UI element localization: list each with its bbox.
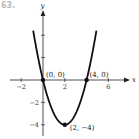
point-label: (0, 0) — [46, 71, 65, 79]
point-marker — [41, 78, 45, 82]
point-label: (4, 0) — [90, 71, 109, 79]
parabola-chart: 63. x y −226 −4−2 (0, 0)(4, 0)(2, −4) — [0, 0, 139, 139]
point-marker — [63, 123, 67, 127]
x-axis-arrow-icon — [124, 78, 130, 83]
x-tick-label: 2 — [63, 83, 67, 91]
point-label: (2, −4) — [70, 124, 95, 132]
x-tick-label: −2 — [16, 83, 26, 91]
point-marker — [84, 78, 88, 82]
y-tick-label: −4 — [29, 121, 39, 129]
axes: x y — [10, 2, 136, 136]
y-axis-arrow-icon — [41, 10, 46, 16]
problem-number: 63. — [1, 1, 15, 10]
y-axis-label: y — [40, 2, 46, 10]
y-tick-label: −2 — [29, 99, 39, 107]
x-tick-label: 6 — [106, 83, 110, 91]
x-axis-label: x — [132, 76, 136, 84]
